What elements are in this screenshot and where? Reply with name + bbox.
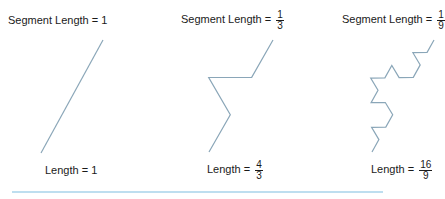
segment-length-value: 1 (101, 14, 107, 26)
length-label-3: Length = 16 9 (371, 160, 432, 181)
length-fraction: 16 9 (419, 160, 432, 181)
fraction-denominator: 3 (276, 21, 284, 31)
length-label-2: Length = 4 3 (207, 160, 263, 181)
koch-curve-iteration-0 (41, 40, 103, 153)
length-text: Length = (371, 163, 414, 175)
koch-curve-iteration-2 (371, 40, 434, 152)
segment-length-label-2: Segment Length = 1 3 (181, 10, 284, 31)
segment-length-fraction: 1 3 (276, 10, 284, 31)
segment-length-text: Segment Length = (342, 13, 432, 25)
fraction-denominator: 9 (419, 171, 432, 181)
length-text: Length = (207, 163, 250, 175)
segment-length-label-1: Segment Length = 1 (8, 14, 107, 27)
length-label-1: Length = 1 (45, 164, 97, 177)
koch-curve-iteration-1 (209, 40, 273, 152)
length-fraction: 4 3 (255, 160, 263, 181)
fraction-denominator: 9 (437, 21, 445, 31)
length-value: 1 (91, 164, 97, 176)
segment-length-text: Segment Length = (8, 14, 98, 26)
length-text: Length = (45, 164, 88, 176)
segment-length-label-3: Segment Length = 1 9 (342, 10, 445, 31)
segment-length-text: Segment Length = (181, 13, 271, 25)
fraction-denominator: 3 (255, 171, 263, 181)
segment-length-fraction: 1 9 (437, 10, 445, 31)
